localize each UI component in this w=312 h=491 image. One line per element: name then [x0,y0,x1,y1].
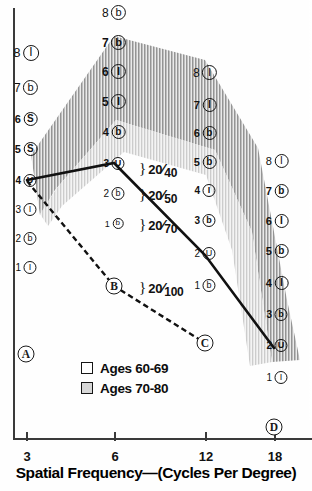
acuity-letter: S [23,142,37,156]
snellen-fraction: 20⁄100 [148,278,183,296]
point-marker-d: D [266,419,283,436]
acuity-row: 7b [14,78,38,96]
acuity-number: 4 [194,185,200,196]
acuity-number: 7 [14,81,21,95]
x-axis [13,438,312,440]
x-tick-12 [205,432,207,441]
acuity-number: 6 [102,65,109,79]
acuity-number: 8 [102,6,109,20]
snellen-fraction: 20⁄40 [148,159,177,177]
acuity-row: 1I [266,368,287,386]
acuity-number: 5 [102,95,109,109]
x-tick-3 [26,432,28,441]
snellen-fraction: 20⁄50 [148,185,177,203]
acuity-letter: b [111,125,125,139]
brace-icon: } [139,186,146,203]
acuity-letter: I [203,184,216,197]
acuity-row: 6I [102,62,126,80]
acuity-row: 3b [194,211,215,229]
acuity-letter: b [275,308,288,321]
acuity-row: 7I [194,95,217,113]
acuity-number: 8 [193,66,200,80]
acuity-row: 3b [266,305,287,323]
x-tick-label-6: 6 [111,449,118,464]
acuity-number: 3 [103,158,109,169]
acuity-letter: b [111,5,126,20]
acuity-letter: b [203,214,216,227]
acuity-number: 4 [15,175,21,186]
acuity-number: 8 [13,45,20,60]
acuity-number: 7 [102,36,109,50]
acuity-row: 2b [15,229,36,247]
acuity-letter: I [275,371,288,384]
acuity-row: 5S [15,139,38,157]
acuity-letter: I [274,214,288,228]
acuity-row: 1b [105,214,124,232]
acuity-letter: I [24,203,37,216]
legend-swatch-70-80 [81,382,93,394]
acuity-letter: b [112,218,123,229]
snellen-annotation: }20⁄40 [139,159,177,178]
brace-icon: } [139,160,146,177]
acuity-number: 3 [194,215,200,226]
acuity-number: 5 [15,143,21,155]
legend-label-60-69: Ages 60-69 [100,361,168,376]
acuity-row: 2b [103,184,124,202]
acuity-letter: I [274,276,288,290]
acuity-number: 5 [266,245,272,257]
snellen-numerator: 20 [148,280,162,295]
brace-icon: } [139,216,146,233]
x-tick-6 [114,432,116,441]
acuity-letter: b [274,184,288,198]
acuity-row: 8I [193,63,217,81]
acuity-letter: I [274,154,288,168]
acuity-number: 4 [266,277,272,289]
acuity-letter: I [111,64,126,79]
acuity-row: 5b [194,152,217,170]
acuity-row: 2U [194,244,215,262]
point-marker-c: C [197,335,214,352]
acuity-number: 6 [194,127,200,139]
acuity-row: 3U [103,154,124,172]
acuity-letter: U [275,339,288,352]
x-axis-title: Spatial Frequency—(Cycles Per Degree) [0,464,312,482]
snellen-annotation: }20⁄70 [139,215,177,234]
chart-figure: 3 6 12 18 Spatial Frequency—(Cycles Per … [0,0,312,491]
acuity-row: 6S [15,109,38,127]
acuity-number: 7 [194,99,200,111]
acuity-row: 7b [266,181,289,199]
acuity-letter: I [202,65,217,80]
acuity-letter: b [274,244,288,258]
acuity-letter: b [203,279,216,292]
acuity-number: 2 [103,188,109,199]
acuity-letter: U [112,157,125,170]
acuity-letter: S [23,112,37,126]
acuity-number: 3 [15,204,21,215]
acuity-number: 4 [103,126,109,138]
legend-item-ages-60-69: Ages 60-69 [81,360,168,376]
acuity-number: 1 [266,372,272,383]
acuity-row: 7b [102,33,126,51]
legend: Ages 60-69 Ages 70-80 [81,360,168,400]
acuity-number: 1 [105,219,110,229]
snellen-numerator: 20 [148,161,162,176]
acuity-number: 1 [15,262,21,273]
acuity-letter: b [24,232,37,245]
acuity-row: 8I [266,151,289,169]
snellen-numerator: 20 [148,217,162,232]
acuity-letter: I [24,261,37,274]
acuity-row: 6I [266,211,289,229]
acuity-letter: b [202,155,216,169]
x-tick-label-12: 12 [199,449,213,464]
acuity-number: 6 [15,113,21,125]
acuity-letter: b [112,187,125,200]
brace-icon: } [139,279,146,296]
acuity-letter: b [202,126,216,140]
acuity-number: 1 [194,280,200,291]
acuity-row: 1b [194,276,215,294]
acuity-row: 2U [266,336,287,354]
snellen-annotation: }20⁄50 [139,185,177,204]
acuity-row: 5b [266,241,289,259]
acuity-letter: I [111,94,126,109]
acuity-row: 8I [13,43,39,61]
